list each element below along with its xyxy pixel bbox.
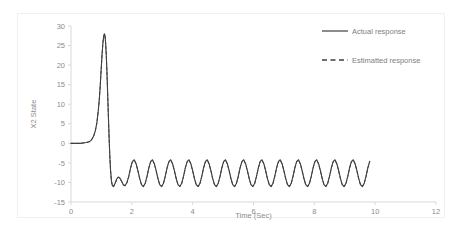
y-axis-title: X2 State [29, 100, 38, 129]
x-axis: 024681012Time (Sec) [69, 202, 440, 220]
series-line-solid [71, 34, 370, 187]
legend-label: Actual response [352, 27, 406, 36]
y-axis: -15-10-5051015202530X2 State [29, 22, 71, 207]
y-tick-label: 0 [61, 139, 65, 148]
y-tick-label: 5 [61, 119, 65, 128]
y-tick-label: 15 [57, 80, 65, 89]
legend-label: Estimatted response [352, 56, 420, 65]
y-tick-label: 10 [57, 100, 65, 109]
y-tick-label: 30 [57, 22, 65, 31]
line-chart: -15-10-5051015202530X2 State 024681012Ti… [0, 0, 462, 235]
x-tick-label: 0 [69, 207, 73, 216]
y-tick-label: -10 [54, 178, 65, 187]
y-tick-label: -15 [54, 198, 65, 207]
y-tick-label: 20 [57, 61, 65, 70]
chart-legend: Actual responseEstimatted response [322, 27, 420, 65]
x-tick-label: 10 [371, 207, 379, 216]
x-tick-label: 12 [432, 207, 440, 216]
y-tick-label: -5 [58, 159, 65, 168]
x-tick-label: 8 [312, 207, 316, 216]
series-line-dashed [71, 34, 370, 187]
chart-figure: -15-10-5051015202530X2 State 024681012Ti… [0, 0, 462, 235]
x-axis-title: Time (Sec) [235, 211, 272, 220]
x-tick-label: 2 [130, 207, 134, 216]
x-tick-label: 4 [191, 207, 195, 216]
y-tick-label: 25 [57, 41, 65, 50]
series-group [71, 34, 370, 187]
